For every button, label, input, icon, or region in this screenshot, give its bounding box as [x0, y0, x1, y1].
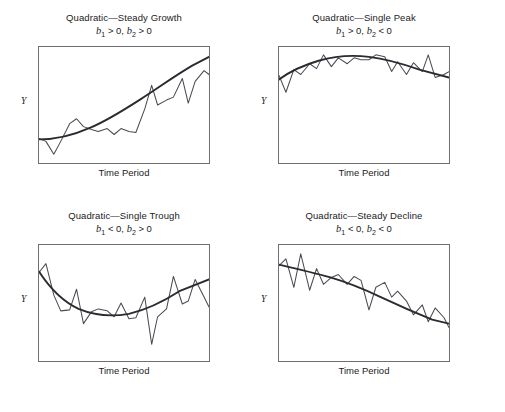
panel-single-trough: Quadratic—Single Trough b1 < 0, b2 > 0 Y…: [8, 206, 240, 396]
b2-relation: < 0: [378, 223, 391, 234]
plot-svg: [39, 245, 209, 361]
b2-subscript: 2: [372, 31, 376, 38]
panel-subtitle: b1 < 0, b2 < 0: [248, 222, 480, 239]
panel-subtitle: b1 > 0, b2 < 0: [248, 24, 480, 41]
quadratic-trend-line: [39, 57, 209, 140]
b1-subscript: 1: [341, 229, 345, 236]
panel-subtitle: b1 > 0, b2 > 0: [8, 24, 240, 41]
plot-wrap: Y Time Period: [8, 244, 240, 364]
b2-relation: > 0: [138, 25, 151, 36]
panel-title: Quadratic—Steady Decline: [248, 210, 480, 222]
observed-series: [39, 264, 209, 345]
x-axis-label: Time Period: [278, 167, 450, 178]
observed-series: [279, 55, 449, 92]
quadratic-trend-line: [279, 265, 449, 324]
plot-frame: [278, 46, 450, 164]
panel-steady-growth: Quadratic—Steady Growth b1 > 0, b2 > 0 Y…: [8, 8, 240, 198]
b2-subscript: 2: [132, 31, 136, 38]
y-axis-label: Y: [21, 96, 26, 106]
panel-title: Quadratic—Single Trough: [8, 210, 240, 222]
panel-subtitle: b1 < 0, b2 > 0: [8, 222, 240, 239]
y-axis-label: Y: [261, 294, 266, 304]
plot-wrap: Y Time Period: [248, 244, 480, 364]
panel-single-peak: Quadratic—Single Peak b1 > 0, b2 < 0 Y T…: [248, 8, 480, 198]
b1-relation: > 0,: [108, 25, 124, 36]
observed-series: [39, 70, 209, 154]
b1-relation: < 0,: [108, 223, 124, 234]
x-axis-label: Time Period: [278, 365, 450, 376]
panel-title: Quadratic—Single Peak: [248, 12, 480, 24]
b2-relation: > 0: [138, 223, 151, 234]
quadratic-trend-figure: Quadratic—Steady Growth b1 > 0, b2 > 0 Y…: [0, 0, 505, 412]
plot-frame: [38, 244, 210, 362]
panel-steady-decline: Quadratic—Steady Decline b1 < 0, b2 < 0 …: [248, 206, 480, 396]
plot-svg: [39, 47, 209, 163]
b1-relation: < 0,: [348, 223, 364, 234]
b1-relation: > 0,: [348, 25, 364, 36]
plot-frame: [38, 46, 210, 164]
y-axis-label: Y: [21, 294, 26, 304]
x-axis-label: Time Period: [38, 167, 210, 178]
b1-subscript: 1: [101, 31, 105, 38]
plot-svg: [279, 245, 449, 361]
b2-subscript: 2: [132, 229, 136, 236]
plot-wrap: Y Time Period: [8, 46, 240, 166]
y-axis-label: Y: [261, 96, 266, 106]
panel-title: Quadratic—Steady Growth: [8, 12, 240, 24]
b2-subscript: 2: [372, 229, 376, 236]
plot-wrap: Y Time Period: [248, 46, 480, 166]
b1-subscript: 1: [101, 229, 105, 236]
plot-svg: [279, 47, 449, 163]
plot-frame: [278, 244, 450, 362]
b1-subscript: 1: [341, 31, 345, 38]
x-axis-label: Time Period: [38, 365, 210, 376]
b2-relation: < 0: [378, 25, 391, 36]
